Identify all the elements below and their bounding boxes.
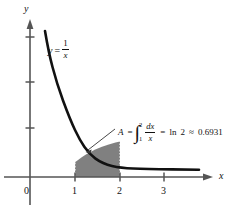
x-axis-label: x (219, 171, 223, 181)
formula-approx-sign: ≈ (189, 128, 194, 137)
y-axis-arrowhead (27, 19, 34, 29)
formula-symbol-A: A (118, 128, 124, 137)
curve-label-numerator: 1 (62, 39, 69, 49)
curve-label-lhs: y (48, 46, 52, 56)
x-axis-arrowhead (203, 174, 213, 181)
formula-ln: ln (169, 128, 176, 137)
curve-label-equals: = (54, 46, 60, 56)
integral-upper-limit: 2 (139, 122, 142, 129)
x-tick-label-1: 1 (72, 186, 77, 196)
x-tick-label-0: 0 (24, 186, 29, 196)
formula-equals-2: = (160, 128, 165, 137)
x-tick-label-3: 3 (161, 186, 166, 196)
curve-label-denominator: x (63, 50, 69, 60)
curve-label-fraction: 1 x (62, 39, 69, 60)
formula-numeric-value: 0.6931 (198, 128, 223, 137)
integral-area-figure: y x 0 1 2 3 y = 1 x A = ∫ 2 1 dx x (0, 0, 241, 217)
y-axis-label: y (24, 4, 28, 14)
integrand-fraction: dx x (145, 122, 155, 142)
formula-ln-argument: 2 (180, 128, 185, 137)
formula-equals-1: = (128, 128, 133, 137)
integrand-numerator: dx (145, 122, 155, 132)
integral-expression: ∫ 2 1 (135, 124, 143, 141)
area-formula-annotation: A = ∫ 2 1 dx x = ln 2 ≈ 0.6931 (118, 122, 223, 142)
x-tick-label-2: 2 (117, 186, 122, 196)
integral-lower-limit: 1 (139, 136, 142, 143)
integrand-denominator: x (147, 133, 153, 143)
curve-equation-label: y = 1 x (48, 40, 69, 61)
